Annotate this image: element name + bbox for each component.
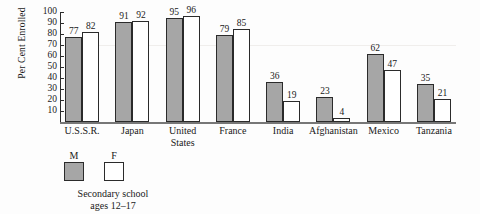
bar-m: 77 <box>65 37 82 122</box>
y-tick-100: 100 <box>28 12 64 13</box>
bar-m: 35 <box>417 84 434 123</box>
bar-group: 234 <box>311 12 355 122</box>
bar-group: 6247 <box>362 12 406 122</box>
y-tick-label: 30 <box>33 83 57 94</box>
legend-keys: M F <box>62 150 242 188</box>
bar-f: 82 <box>82 32 99 122</box>
bar-group: 7782 <box>60 12 104 122</box>
bar-series-container: 7782919295967985361923462473521 <box>60 12 456 122</box>
bar-group: 3619 <box>261 12 305 122</box>
bar-value-label: 36 <box>270 71 280 82</box>
bar-f: 47 <box>384 70 401 122</box>
legend: M F Secondary school ages 12–17 <box>62 150 242 188</box>
bar-f: 85 <box>233 29 250 123</box>
y-tick-label: 10 <box>33 105 57 116</box>
y-tick-50: 50 <box>28 67 64 68</box>
bar-value-label: 19 <box>287 90 297 101</box>
bar-value-label: 23 <box>320 86 330 97</box>
bar-m: 36 <box>266 82 283 122</box>
legend-label-female: F <box>104 150 124 161</box>
bar-group: 7985 <box>211 12 255 122</box>
bar-value-label: 95 <box>169 7 179 18</box>
y-axis-title: Per Cent Enrolled <box>17 0 27 101</box>
legend-swatch-male <box>64 162 84 181</box>
y-tick-label: 50 <box>33 61 57 72</box>
x-category-label: Tanzania <box>400 125 468 137</box>
y-tick-70: 70 <box>28 45 64 46</box>
y-tick-label: 70 <box>33 39 57 50</box>
bar-chart: Per Cent Enrolled 100908070605040302010 … <box>0 0 480 214</box>
y-tick-label: 20 <box>33 94 57 105</box>
y-tick-20: 20 <box>28 100 64 101</box>
y-tick-label: 60 <box>33 50 57 61</box>
bar-value-label: 47 <box>387 59 397 70</box>
y-tick-label: 100 <box>33 6 57 17</box>
bar-value-label: 62 <box>370 43 380 54</box>
y-tick-90: 90 <box>28 23 64 24</box>
legend-caption: Secondary school ages 12–17 <box>48 188 178 212</box>
bar-value-label: 91 <box>119 11 129 22</box>
plot-area: 100908070605040302010 778291929596798536… <box>60 12 456 122</box>
legend-caption-line1: Secondary school <box>78 188 149 199</box>
bar-value-label: 35 <box>421 73 431 84</box>
bar-value-label: 21 <box>438 88 448 99</box>
bar-value-label: 79 <box>220 24 230 35</box>
legend-caption-line2: ages 12–17 <box>48 200 178 212</box>
bar-value-label: 92 <box>136 10 146 21</box>
bar-m: 79 <box>216 35 233 122</box>
bar-f: 4 <box>333 118 350 122</box>
bar-value-label: 96 <box>186 5 196 16</box>
bar-group: 9596 <box>161 12 205 122</box>
bar-value-label: 82 <box>86 21 96 32</box>
y-tick-10: 10 <box>28 111 64 112</box>
bar-m: 23 <box>316 97 333 122</box>
legend-label-male: M <box>64 150 84 161</box>
bar-f: 19 <box>283 101 300 122</box>
bar-group: 9192 <box>110 12 154 122</box>
bar-m: 62 <box>367 54 384 122</box>
bar-group: 3521 <box>412 12 456 122</box>
bar-m: 91 <box>115 22 132 122</box>
y-tick-80: 80 <box>28 34 64 35</box>
legend-swatch-female <box>104 162 124 181</box>
y-tick-40: 40 <box>28 78 64 79</box>
y-tick-label: 90 <box>33 17 57 28</box>
bar-m: 95 <box>166 18 183 123</box>
y-tick-label: 40 <box>33 72 57 83</box>
y-tick-60: 60 <box>28 56 64 57</box>
bar-value-label: 85 <box>237 18 247 29</box>
bar-value-label: 4 <box>340 107 345 118</box>
bar-value-label: 77 <box>69 26 79 37</box>
bar-f: 21 <box>434 99 451 122</box>
y-tick-30: 30 <box>28 89 64 90</box>
y-tick-label: 80 <box>33 28 57 39</box>
bar-f: 96 <box>183 16 200 122</box>
x-axis-line <box>60 122 456 124</box>
bar-f: 92 <box>132 21 149 122</box>
